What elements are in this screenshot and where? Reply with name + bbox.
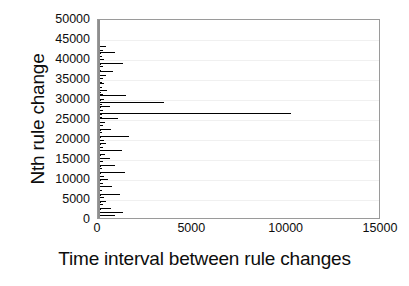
y-axis-tick-labels: 0500010000150002000025000300003500040000… (28, 0, 90, 286)
y-tick-label: 30000 (55, 93, 90, 106)
data-series-spikes (98, 20, 379, 218)
y-tick-label: 5000 (62, 193, 90, 206)
y-tick-label: 15000 (55, 153, 90, 166)
spike-bar (98, 194, 120, 195)
x-tick-label: 0 (94, 222, 101, 235)
y-tick-label: 35000 (55, 73, 90, 86)
y-tick-label: 40000 (55, 53, 90, 66)
y-axis-spine (98, 20, 100, 218)
x-tick-label: 10000 (268, 222, 303, 235)
spike-bar (98, 102, 164, 103)
spike-bar (98, 212, 123, 213)
x-tick-label: 15000 (363, 222, 398, 235)
spike-bar (98, 113, 291, 114)
spike-bar (98, 118, 118, 119)
x-axis-tick-labels: 050001000015000 (0, 222, 409, 240)
x-tick-label: 5000 (177, 222, 205, 235)
chart-figure: Nth rule change 050001000015000200002500… (0, 0, 409, 286)
spike-bar (98, 95, 126, 96)
spike-bar (98, 71, 113, 72)
y-tick-label: 25000 (55, 113, 90, 126)
y-tick-label: 10000 (55, 173, 90, 186)
spike-bar (98, 136, 129, 137)
spike-bar (98, 172, 125, 173)
x-axis-title: Time interval between rule changes (0, 248, 409, 270)
y-tick-label: 20000 (55, 133, 90, 146)
plot-area (97, 19, 380, 219)
spike-bar (98, 215, 115, 216)
y-tick-label: 45000 (55, 33, 90, 46)
y-tick-label: 50000 (55, 13, 90, 26)
spike-bar (98, 186, 112, 187)
spike-bar (98, 63, 123, 64)
spike-bar (98, 150, 122, 151)
